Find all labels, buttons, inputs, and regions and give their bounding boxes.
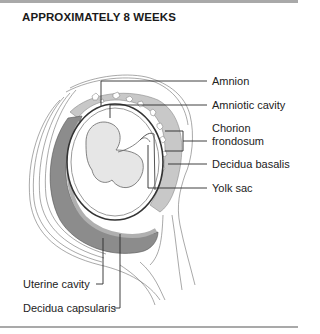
label-chorion: Chorion xyxy=(212,122,251,135)
label-yolk-sac: Yolk sac xyxy=(212,182,253,195)
label-frondosum: frondosum xyxy=(212,135,264,148)
label-amniotic-cavity: Amniotic cavity xyxy=(212,99,285,112)
label-decidua-capsularis: Decidua capsularis xyxy=(23,302,116,315)
label-amnion: Amnion xyxy=(212,75,249,88)
label-uterine-cavity: Uterine cavity xyxy=(23,278,90,291)
label-decidua-basalis: Decidua basalis xyxy=(212,158,290,171)
